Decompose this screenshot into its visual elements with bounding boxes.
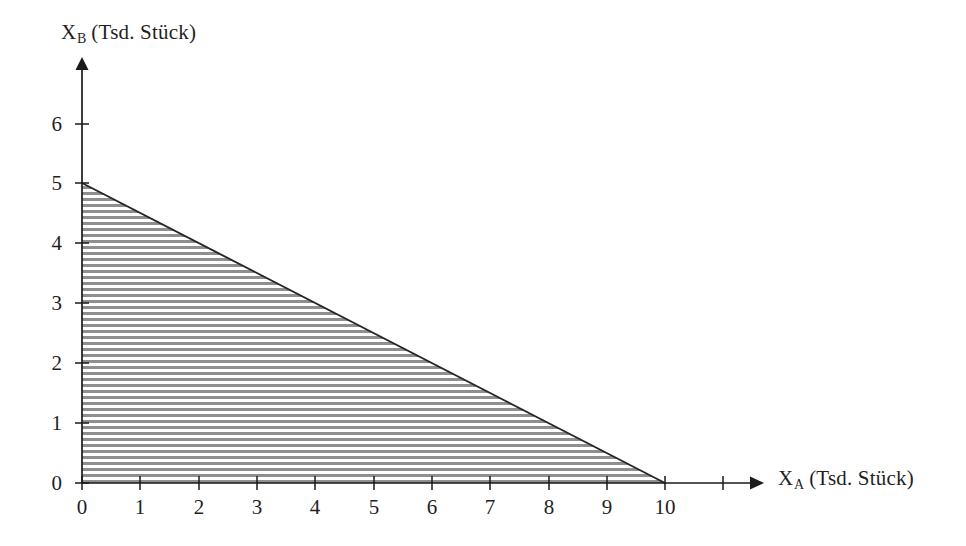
y-tick-label: 1 bbox=[36, 411, 62, 436]
y-axis-arrowhead bbox=[76, 57, 89, 70]
y-axis-label: XB (Tsd. Stück) bbox=[61, 20, 196, 45]
x-tick-label: 10 bbox=[650, 495, 680, 520]
x-tick-label: 3 bbox=[242, 495, 272, 520]
chart-plot-area bbox=[0, 0, 966, 546]
chart-canvas: XB (Tsd. Stück) XA (Tsd. Stück) 0 1 2 3 … bbox=[0, 0, 966, 546]
x-tick-label: 0 bbox=[67, 495, 97, 520]
x-axis-label-unit: (Tsd. Stück) bbox=[804, 466, 914, 490]
y-tick-label: 4 bbox=[36, 231, 62, 256]
x-axis-arrowhead bbox=[750, 477, 764, 490]
y-tick-label: 6 bbox=[36, 112, 62, 137]
y-tick-label: 0 bbox=[36, 471, 62, 496]
y-axis-label-base: X bbox=[61, 20, 76, 44]
x-tick-label: 8 bbox=[534, 495, 564, 520]
x-tick-label: 9 bbox=[592, 495, 622, 520]
x-tick-label: 5 bbox=[359, 495, 389, 520]
x-tick-label: 1 bbox=[125, 495, 155, 520]
x-axis-label: XA (Tsd. Stück) bbox=[778, 466, 914, 491]
y-axis-label-subscript: B bbox=[77, 31, 87, 46]
x-axis-label-subscript: A bbox=[794, 477, 804, 492]
x-tick-label: 7 bbox=[475, 495, 505, 520]
y-tick-label: 5 bbox=[36, 171, 62, 196]
y-axis-label-unit: (Tsd. Stück) bbox=[86, 20, 196, 44]
y-tick-label: 3 bbox=[36, 291, 62, 316]
y-tick-label: 2 bbox=[36, 351, 62, 376]
x-tick-label: 4 bbox=[300, 495, 330, 520]
x-tick-label: 6 bbox=[417, 495, 447, 520]
x-tick-label: 2 bbox=[184, 495, 214, 520]
x-axis-label-base: X bbox=[778, 466, 793, 490]
